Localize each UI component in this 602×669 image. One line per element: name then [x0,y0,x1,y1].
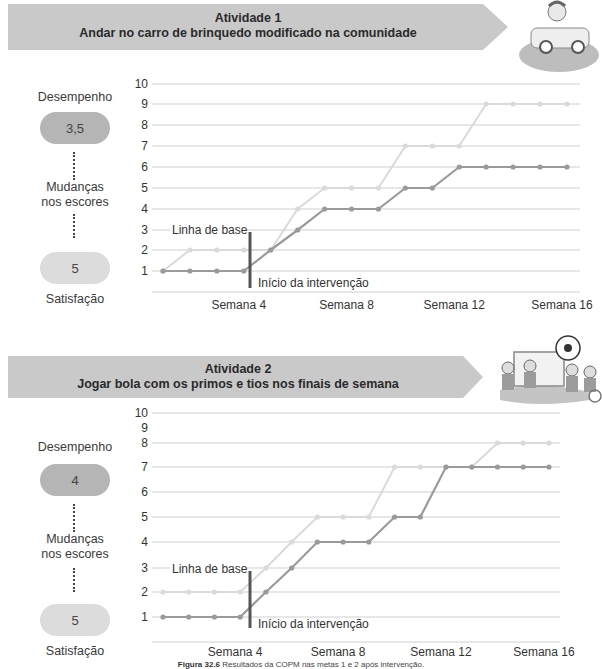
performance-series-point [443,464,448,469]
satisfaction-series-point [392,464,397,469]
x-tick-label: Semana 16 [513,645,575,659]
y-tick-label: 9 [141,421,148,435]
y-tick-label: 5 [141,510,148,524]
baseline-annotation: Linha de base [172,562,248,576]
figure-caption: Figura 32.6 Resultados da COPM nas metas… [0,660,602,669]
satisfaction-series-point [263,565,268,570]
satisfaction-series-point [160,589,165,594]
satisfaction-series-point [212,589,217,594]
performance-series-point [469,464,474,469]
intervention-annotation: Início da intervenção [258,617,369,631]
satisfaction-series-point [521,440,526,445]
y-tick-label: 8 [141,436,148,450]
performance-series-point [186,614,191,619]
performance-series-point [546,464,551,469]
performance-series-point [212,614,217,619]
satisfaction-series-point [238,589,243,594]
performance-series-point [495,464,500,469]
figure-caption-text: Resultados da COPM nas metas 1 e 2 após … [220,660,424,669]
satisfaction-series-point [289,539,294,544]
y-tick-label: 3 [141,561,148,575]
satisfaction-series-point [418,464,423,469]
performance-series-point [160,614,165,619]
x-tick-label: Semana 12 [410,645,472,659]
performance-series-point [366,539,371,544]
performance-series-point [341,539,346,544]
y-tick-label: 10 [135,406,149,420]
y-tick-label: 2 [141,585,148,599]
figure-label: Figura 32.6 [178,660,220,669]
activity-2-line-chart: 12345678910Semana 4Semana 8Semana 12Sema… [0,0,602,669]
satisfaction-series-point [186,589,191,594]
satisfaction-series-point [546,440,551,445]
satisfaction-series-point [315,514,320,519]
performance-series-point [289,565,294,570]
y-tick-label: 6 [141,485,148,499]
performance-series-point [418,514,423,519]
satisfaction-series-point [495,440,500,445]
performance-series-point [315,539,320,544]
y-tick-label: 4 [141,535,148,549]
y-tick-label: 7 [141,460,148,474]
satisfaction-series-point [341,514,346,519]
y-tick-label: 1 [141,610,148,624]
performance-series-point [238,614,243,619]
performance-series-point [263,589,268,594]
x-tick-label: Semana 4 [208,645,263,659]
performance-series-point [392,514,397,519]
performance-series-point [521,464,526,469]
satisfaction-series-point [366,514,371,519]
x-tick-label: Semana 8 [311,645,366,659]
